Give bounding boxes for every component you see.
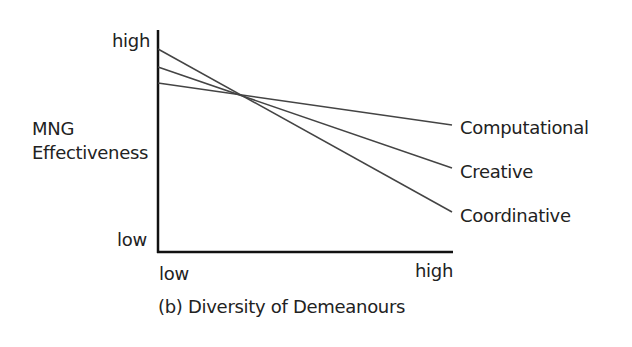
series-label-computational: Computational [460, 117, 589, 138]
chart-canvas [0, 0, 632, 347]
series-line-computational [158, 83, 452, 125]
y-tick-high: high [112, 30, 150, 51]
x-tick-high: high [415, 260, 453, 281]
series-line-coordinative [158, 49, 452, 212]
series-line-creative [158, 67, 452, 168]
y-axis-label-line1: MNG [32, 118, 74, 139]
y-tick-low: low [117, 229, 147, 250]
y-axis-label-line2: Effectiveness [32, 142, 148, 163]
series-label-creative: Creative [460, 161, 533, 182]
x-tick-low: low [159, 263, 189, 284]
x-axis-caption: (b) Diversity of Demeanours [158, 296, 405, 317]
series-label-coordinative: Coordinative [460, 205, 571, 226]
